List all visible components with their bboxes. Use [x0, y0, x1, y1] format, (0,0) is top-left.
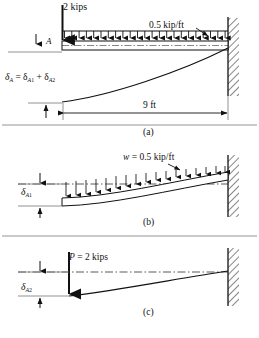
panel-b [2, 155, 257, 236]
leader-line-b [168, 164, 180, 170]
deflected-beam-b [62, 172, 228, 206]
leader-line-a [196, 28, 208, 36]
w-value: = 0.5 kip/ft [129, 152, 174, 162]
panel-label-b: (b) [143, 218, 154, 228]
deflection-equation-a: δA = δA1 + δA2 [5, 73, 55, 84]
deflection-label-b: δA1 [21, 188, 32, 199]
distributed-load-label-a: 0.5 kip/ft [149, 21, 184, 31]
fixed-wall-b [228, 155, 239, 217]
eq-plus: + δ [34, 72, 49, 82]
delta-sub-c-num: 2 [29, 287, 32, 293]
deflection-label-c: δA2 [21, 283, 32, 294]
panel-c [18, 248, 239, 308]
span-dimension-label: 9 ft [143, 101, 156, 111]
delta-sub-a2-num: 2 [52, 77, 55, 83]
panel-label-c: (c) [143, 308, 154, 318]
point-load-label-a: 2 kips [63, 2, 87, 12]
superposition-figure [0, 0, 259, 338]
deflected-shape-a [62, 48, 228, 102]
distributed-load-label-b: w = 0.5 kip/ft [123, 153, 174, 163]
point-a-label: A [46, 37, 52, 46]
panel-a [2, 5, 257, 125]
fixed-wall-a [228, 17, 239, 96]
delta-sub-b-num: 1 [29, 192, 32, 198]
fixed-wall-c [228, 248, 239, 306]
deflected-shape-c [69, 271, 228, 296]
distributed-load-a [62, 31, 228, 38]
eq-mid: = δ [13, 72, 28, 82]
point-load-label-c: P = 2 kips [69, 253, 108, 263]
beam-a [62, 41, 228, 50]
panel-label-a: (a) [143, 128, 154, 138]
p-value: = 2 kips [75, 252, 108, 262]
